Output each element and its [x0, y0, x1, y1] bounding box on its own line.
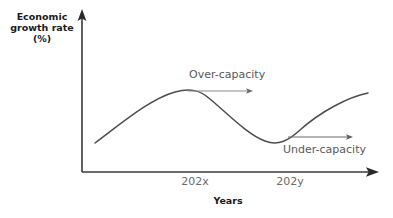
- y-axis-title-line-1: Economic: [17, 11, 68, 22]
- x-axis-tick-label-202y: 202y: [270, 176, 310, 189]
- y-axis-title-line-3: (%): [33, 33, 51, 44]
- y-axis-title: Economicgrowth rate(%): [6, 11, 78, 45]
- x-axis-tick-label-202x: 202x: [175, 176, 215, 189]
- under-capacity-label: Under-capacity: [283, 144, 366, 157]
- economic-growth-rate-chart: Economicgrowth rate(%) Over-capacity Und…: [0, 0, 393, 218]
- over-capacity-label: Over-capacity: [189, 69, 265, 82]
- x-axis-title: Years: [198, 195, 258, 206]
- y-axis-title-line-2: growth rate: [10, 22, 73, 33]
- growth-rate-curve: [95, 90, 368, 143]
